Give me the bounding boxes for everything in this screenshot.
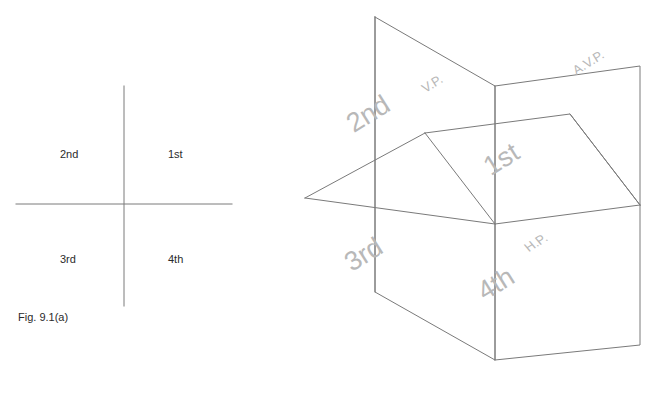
quadrant-label-2nd: 2nd xyxy=(60,148,78,160)
diagram-linework xyxy=(0,0,659,397)
quadrant-label-4th: 4th xyxy=(168,253,183,265)
horizontal-plane-right-edge xyxy=(570,114,640,205)
quadrant-label-3rd: 3rd xyxy=(60,253,76,265)
auxiliary-vertical-plane-outline xyxy=(495,66,640,360)
figure-caption: Fig. 9.1(a) xyxy=(18,311,68,323)
horizontal-plane-outline xyxy=(305,198,640,224)
quadrant-label-1st: 1st xyxy=(168,148,183,160)
vertical-plane-outline xyxy=(375,17,495,360)
horizontal-plane-fold-line xyxy=(425,133,495,224)
figure-canvas: 2nd 1st 3rd 4th Fig. 9.1(a) 2nd 1st 3rd … xyxy=(0,0,659,397)
